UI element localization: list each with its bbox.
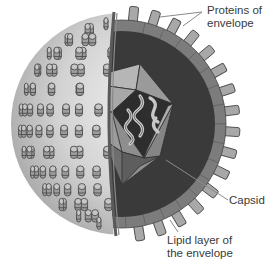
label-line: Lipid layer of <box>167 234 233 247</box>
label-capsid: Capsid <box>229 194 265 207</box>
label-lipid-layer: Lipid layer of the envelope <box>167 234 233 260</box>
label-proteins-of-envelope: Proteins of envelope <box>207 4 262 30</box>
label-line: envelope <box>207 17 262 30</box>
label-line: the envelope <box>167 247 233 260</box>
virus-diagram: Proteins of envelope Capsid Lipid layer … <box>0 0 275 266</box>
label-line: Proteins of <box>207 4 262 17</box>
proteins-leader <box>160 12 202 26</box>
